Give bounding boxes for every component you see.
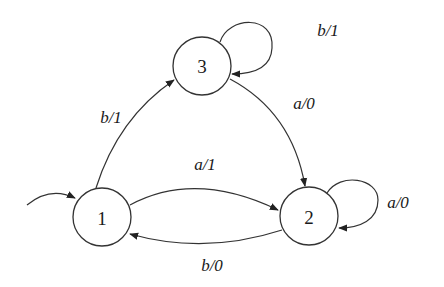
state-2-label: 2 (304, 207, 314, 228)
state-diagram: 3 1 2 b/1 b/1 a/0 a/1 a/0 b/0 (0, 0, 444, 287)
state-1: 1 (73, 188, 131, 246)
state-2: 2 (280, 187, 338, 245)
state-1-label: 1 (97, 208, 107, 229)
edge-1-to-2 (130, 189, 278, 210)
state-3: 3 (173, 37, 231, 95)
initial-state-arrow (27, 193, 75, 205)
label-1-to-3: b/1 (100, 108, 122, 127)
label-3-to-2: a/0 (293, 94, 315, 113)
state-3-label: 3 (197, 56, 207, 77)
label-1-to-2: a/1 (194, 155, 216, 174)
label-3-self-loop: b/1 (317, 21, 339, 40)
edge-2-to-1 (130, 230, 282, 244)
label-2-self-loop: a/0 (387, 193, 409, 212)
label-2-to-1: b/0 (201, 256, 223, 275)
edge-1-to-3 (96, 80, 174, 188)
